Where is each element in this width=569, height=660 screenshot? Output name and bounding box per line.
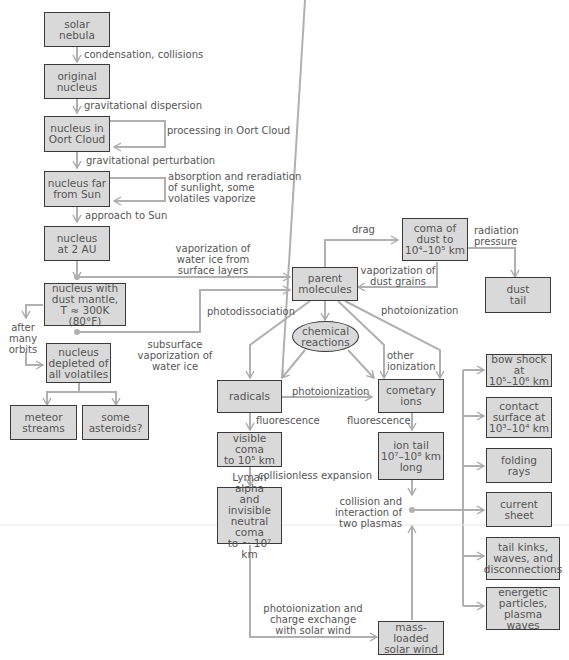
label-other-ionization: other ionization (387, 350, 436, 372)
node-meteor-streams: meteor streams (10, 405, 77, 440)
label-vaporization-dust: vaporization of dust grains (358, 265, 438, 287)
label-photodissociation: photodissociation (207, 306, 295, 317)
node-mass-loaded-solar-wind: mass-loaded solar wind (378, 621, 444, 655)
comet-flowchart: solar nebula original nucleus nucleus in… (0, 0, 569, 660)
label-radiation-pressure: radiation pressure (474, 225, 519, 247)
label-collision-plasmas: collision and interaction of two plasmas (330, 496, 402, 529)
node-folding-rays: folding rays (486, 448, 552, 483)
label-fluorescence-right: fluorescence (347, 415, 411, 426)
node-energetic-particles: energetic particles, plasma waves (486, 587, 560, 630)
label-condensation: condensation, collisions (84, 49, 203, 60)
label-photoionization-charge-exchange: photoionization and charge exchange with… (258, 603, 368, 636)
node-current-sheet: current sheet (486, 492, 552, 527)
label-absorption: absorption and reradiation of sunlight, … (168, 171, 301, 204)
label-approach-sun: approach to Sun (85, 210, 167, 221)
node-contact-surface: contact surface at 10³–10⁴ km (486, 397, 552, 438)
label-collisionless-expansion: collisionless expansion (258, 470, 372, 481)
node-cometary-ions: cometary ions (378, 379, 444, 413)
label-subsurface: subsurface vaporization of water ice (135, 339, 215, 372)
label-processing-oort: processing in Oort Cloud (167, 125, 290, 136)
node-solar-nebula: solar nebula (44, 12, 110, 47)
node-parent-molecules: parent molecules (292, 267, 358, 301)
label-grav-dispersion: gravitational dispersion (84, 100, 202, 111)
node-tail-kinks: tail kinks, waves, and disconnections (486, 537, 560, 580)
label-drag: drag (352, 224, 375, 235)
node-nucleus-2au: nucleus at 2 AU (44, 226, 110, 261)
node-chemical-reactions: chemical reactions (292, 321, 359, 352)
label-fluorescence-left: fluorescence (256, 415, 320, 426)
node-coma-of-dust: coma of dust to 10⁴–10⁵ km (402, 218, 468, 261)
label-photoionization-top: photoionization (381, 305, 458, 316)
label-photoionization-mid: photoionization (292, 386, 369, 397)
node-visible-coma: visible coma to 10⁵ km (217, 432, 282, 467)
node-some-asteroids: some asteroids? (82, 405, 149, 440)
node-nucleus-dust-mantle: nucleus with dust mantle, T ≈ 300K (80°F… (44, 283, 126, 326)
node-lyman-alpha-coma: Lyman alpha and invisible neutral coma t… (217, 487, 282, 544)
label-grav-perturbation: gravitational perturbation (86, 155, 215, 166)
node-nucleus-oort-cloud: nucleus in Oort Cloud (44, 116, 110, 152)
node-bow-shock: bow shock at 10⁵–10⁶ km (486, 354, 552, 387)
node-nucleus-depleted: nucleus depleted of all volatiles (46, 343, 111, 383)
node-original-nucleus: original nucleus (44, 64, 110, 99)
node-dust-tail: dust tail (485, 277, 551, 313)
node-nucleus-far-from-sun: nucleus far from Sun (44, 171, 110, 207)
node-ion-tail: ion tail 10⁷–10⁸ km long (378, 432, 444, 480)
label-after-many-orbits: after many orbits (4, 322, 42, 355)
label-vaporization-water-ice: vaporization of water ice from surface l… (158, 243, 268, 276)
node-radicals: radicals (217, 380, 282, 413)
